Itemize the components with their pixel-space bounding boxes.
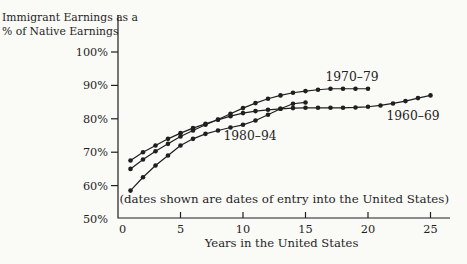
data-point	[253, 109, 258, 114]
data-point	[391, 101, 396, 106]
data-point	[191, 128, 196, 133]
data-point	[178, 134, 183, 139]
data-point	[303, 89, 308, 94]
data-point	[328, 105, 333, 110]
data-point	[228, 111, 233, 116]
data-point	[291, 101, 296, 106]
x-tick-label: 20	[361, 223, 375, 236]
data-point	[153, 143, 158, 148]
y-tick-label: 70%	[83, 146, 108, 159]
data-point	[366, 104, 371, 109]
x-axis-title: Years in the United States	[118, 236, 445, 250]
data-point	[378, 103, 383, 108]
data-point	[216, 117, 221, 122]
data-point	[303, 100, 308, 105]
data-point	[166, 142, 171, 147]
data-point	[266, 96, 271, 101]
data-point	[316, 87, 321, 92]
x-tick-label: 25	[423, 223, 437, 236]
data-point	[141, 175, 146, 180]
y-tick-label: 50%	[83, 213, 108, 226]
data-point	[241, 123, 246, 128]
series-1960-69	[128, 93, 433, 163]
x-tick-label: 5	[177, 223, 184, 236]
data-point	[153, 163, 158, 168]
data-point	[416, 96, 421, 101]
x-tick-label: 0	[119, 223, 126, 236]
series-label-1980-94: 1980–94	[223, 129, 276, 143]
entry-dates-note: (dates shown are dates of entry into the…	[119, 192, 449, 206]
data-point	[291, 90, 296, 95]
data-point	[303, 105, 308, 110]
y-axis-title-line1: Immigrant Earnings as a	[2, 11, 116, 25]
data-point	[241, 106, 246, 111]
figure-page: 50%60%70%80%90%100%0510152025 Immigrant …	[0, 0, 467, 264]
data-point	[153, 149, 158, 154]
y-axis-title: Immigrant Earnings as a % of Native Earn…	[2, 11, 116, 38]
data-point	[216, 128, 221, 133]
data-point	[353, 86, 358, 91]
data-point	[341, 105, 346, 110]
data-point	[291, 106, 296, 111]
data-point	[278, 106, 283, 111]
y-tick-label: 80%	[83, 113, 108, 126]
data-point	[403, 99, 408, 104]
data-point	[203, 132, 208, 137]
data-point	[191, 137, 196, 142]
series-label-1970-79: 1970–79	[325, 70, 378, 84]
data-point	[203, 123, 208, 128]
data-point	[128, 167, 133, 172]
data-point	[241, 111, 246, 116]
data-point	[253, 118, 258, 123]
x-tick-label: 10	[236, 223, 250, 236]
data-point	[253, 101, 258, 106]
data-point	[366, 86, 371, 91]
data-point	[278, 93, 283, 98]
y-tick-label: 90%	[83, 79, 108, 92]
y-axis-title-line2: % of Native Earnings	[2, 25, 116, 39]
y-tick-label: 100%	[76, 46, 109, 59]
data-point	[128, 158, 133, 163]
data-point	[341, 86, 346, 91]
data-point	[166, 137, 171, 142]
x-tick-label: 15	[298, 223, 312, 236]
data-point	[141, 150, 146, 155]
series-label-1960-69: 1960–69	[386, 109, 439, 123]
y-tick-label: 60%	[83, 180, 108, 193]
data-point	[353, 105, 358, 110]
data-point	[428, 93, 433, 98]
data-point	[316, 105, 321, 110]
data-point	[328, 86, 333, 91]
data-point	[178, 143, 183, 148]
data-point	[166, 153, 171, 158]
data-point	[266, 112, 271, 117]
data-point	[141, 157, 146, 162]
data-point	[266, 107, 271, 112]
